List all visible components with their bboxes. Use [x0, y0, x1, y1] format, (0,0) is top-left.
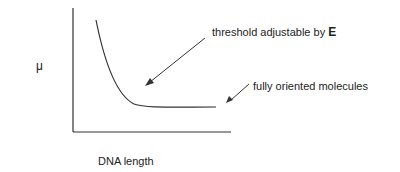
plateau-arrowhead — [226, 96, 233, 103]
plateau-annotation: fully oriented molecules — [253, 80, 368, 92]
plateau-arrow — [231, 84, 249, 100]
field-symbol: E — [328, 25, 336, 39]
y-axis-label: μ — [36, 59, 43, 73]
threshold-arrowhead — [145, 78, 154, 86]
threshold-arrow — [150, 38, 205, 82]
x-axis-label: DNA length — [98, 155, 154, 167]
threshold-text: threshold adjustable by — [212, 26, 328, 38]
threshold-annotation: threshold adjustable by E — [212, 25, 336, 39]
mobility-curve — [96, 20, 216, 107]
